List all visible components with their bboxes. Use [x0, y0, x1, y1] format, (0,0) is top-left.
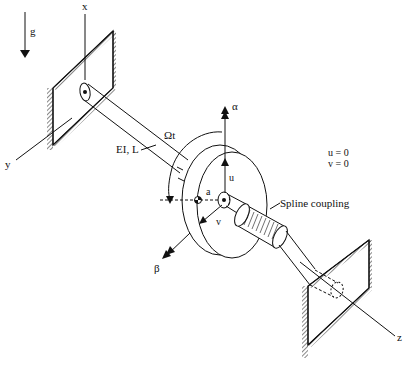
alpha-label: α [232, 100, 238, 112]
eccentricity-label: a [206, 186, 211, 197]
shaft-properties-label: EI, L [116, 143, 139, 155]
v-label: v [216, 216, 221, 227]
gravity-label: g [30, 25, 36, 37]
x-axis-label: x [82, 0, 88, 12]
gravity-arrow [20, 12, 30, 58]
rotation-label: Ωt [164, 129, 175, 141]
bc-u-label: u = 0 [328, 147, 349, 158]
z-axis-label: z [397, 331, 402, 343]
mass-center-marker [195, 197, 202, 204]
right-support [302, 240, 372, 358]
spline-label: Spline coupling [280, 197, 350, 209]
spline-leader [270, 203, 280, 209]
beta-arrowhead-2 [166, 246, 175, 255]
u-label: u [229, 172, 234, 183]
rotor-diagram: g x y EI, L Ωt a [0, 0, 413, 369]
beta-label: β [154, 262, 160, 274]
bc-v-label: v = 0 [328, 158, 349, 169]
y-axis-label: y [5, 158, 11, 170]
shaft-stub [218, 192, 230, 208]
